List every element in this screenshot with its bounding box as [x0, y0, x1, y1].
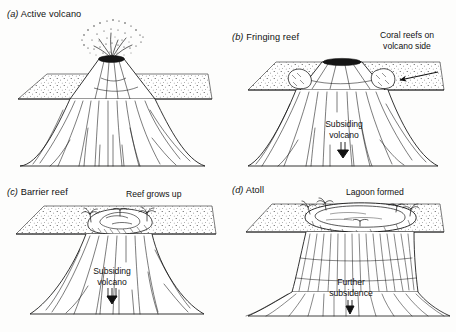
eruption-plume-icon [81, 19, 143, 55]
crater-icon-b [323, 58, 361, 65]
subsiding-volcano-label-c-line1: Subsiding [76, 266, 148, 277]
panel-d-artwork [246, 198, 450, 316]
coral-reef-formation-figure: (a) Active volcano (b) Fringing reef (c)… [0, 0, 456, 332]
panel-c-title: Barrier reef [21, 187, 68, 197]
panel-a-index: (a) [7, 9, 19, 19]
panel-b-index: (b) [232, 32, 244, 42]
panel-d-caption: (d) Atoll [232, 185, 264, 195]
lagoon-formed-label-line1: Lagoon formed [346, 187, 404, 198]
coral-reef-mass-right-b [371, 69, 395, 89]
reef-grows-up-label-line1: Reef grows up [126, 189, 181, 200]
further-subsidence-label-line1: Further [314, 277, 388, 288]
subsiding-volcano-label-c-line2: volcano [76, 277, 148, 288]
panel-a-title: Active volcano [21, 9, 82, 19]
panel-c-index: (c) [7, 187, 18, 197]
further-subsidence-label-line2: subsidence [314, 288, 388, 299]
reef-grows-up-label: Reef grows up [126, 189, 181, 200]
panel-b-title: Fringing reef [246, 32, 299, 42]
crater-icon-a [99, 56, 125, 63]
panel-c-artwork [16, 206, 216, 314]
lagoon-formed-label: Lagoon formed [346, 187, 404, 198]
ejecta-trajectories [94, 33, 132, 58]
panel-a-caption: (a) Active volcano [7, 9, 81, 19]
subsiding-volcano-label-b: Subsiding volcano [308, 119, 380, 140]
panel-c-caption: (c) Barrier reef [7, 187, 68, 197]
coral-reefs-label-line2: volcano side [362, 41, 452, 52]
further-subsidence-label: Further subsidence [314, 277, 388, 298]
subsiding-volcano-label-b-line1: Subsiding [308, 119, 380, 130]
panel-d-index: (d) [232, 185, 244, 195]
subsiding-volcano-label-c: Subsiding volcano [76, 266, 148, 287]
coral-reefs-label-line1: Coral reefs on [362, 30, 452, 41]
coral-reefs-label: Coral reefs on volcano side [362, 30, 452, 51]
panel-d-title: Atoll [246, 185, 264, 195]
panel-b-artwork [248, 58, 444, 166]
panel-b-caption: (b) Fringing reef [232, 32, 299, 42]
subsiding-volcano-label-b-line2: volcano [308, 130, 380, 141]
panel-a-artwork [18, 19, 212, 166]
